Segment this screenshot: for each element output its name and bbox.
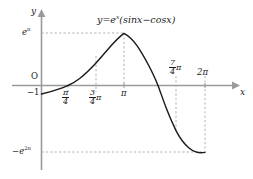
y-max-exponent: π — [27, 26, 30, 32]
equation-body: (sin — [119, 14, 137, 25]
fraction-trailing-pi: π — [96, 93, 101, 102]
equation-close-paren: ) — [172, 14, 176, 25]
x-tick-label-pi: π — [121, 89, 127, 98]
y-intercept-label: −1 — [27, 88, 40, 97]
x-tick-label-pi-over-4: π 4 — [62, 89, 69, 106]
y-axis-arrowhead — [38, 9, 46, 17]
y-axis-label: y — [31, 7, 36, 16]
fraction-denominator: 4 — [62, 98, 69, 106]
x-axis-label: x — [240, 88, 245, 97]
y-max-value-label: eπ — [22, 27, 31, 36]
x-tick-label-3pi-over-4: 3 4 π — [89, 89, 101, 106]
y-min-value-label: −e2π — [12, 146, 31, 155]
x-tick-label-7pi-over-4: 7 4 π — [169, 59, 181, 76]
x-tick-label-2pi: 2π — [197, 68, 208, 77]
function-graph-figure: y x O −1 eπ −e2π y=ex(sinx−cosx) π 4 3 4… — [0, 0, 253, 179]
y-min-exponent: 2π — [24, 145, 31, 151]
fraction-pi-over-4: π 4 — [62, 89, 69, 106]
equation-minus-cos: −cos — [142, 14, 166, 25]
x-axis-arrowhead — [232, 82, 240, 90]
fraction-trailing-pi: π — [176, 63, 181, 72]
curve-equation-label: y=ex(sinx−cosx) — [97, 15, 175, 25]
origin-label: O — [31, 72, 38, 81]
